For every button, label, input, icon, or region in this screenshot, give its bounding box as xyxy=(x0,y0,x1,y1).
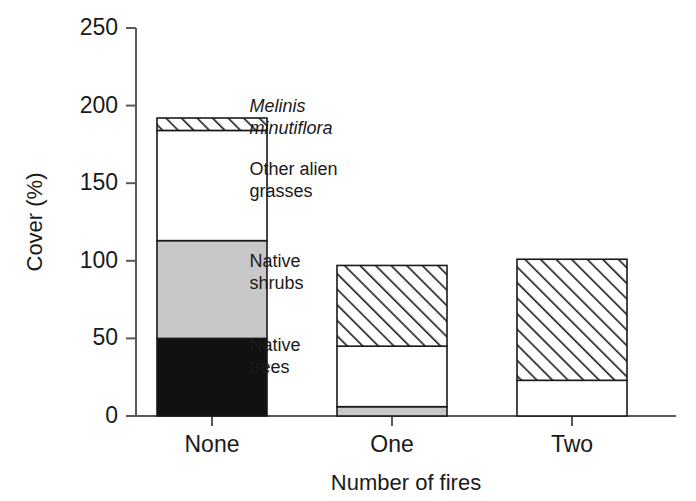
y-tick-label-200: 200 xyxy=(80,92,118,118)
series-annotation-3: grasses xyxy=(249,181,312,201)
series-annotation-0: Melinis xyxy=(249,96,305,116)
bar-segment-one-other-alien-grasses xyxy=(337,346,447,407)
x-tick-label-two: Two xyxy=(551,431,593,457)
y-tick-label-250: 250 xyxy=(80,14,118,40)
series-annotation-2: Other alien xyxy=(249,159,337,179)
series-annotation-6: Native xyxy=(249,335,300,355)
x-tick-label-none: None xyxy=(185,431,240,457)
bar-segment-one-melinis-minutiflora xyxy=(337,265,447,346)
y-tick-label-50: 50 xyxy=(92,324,118,350)
series-annotation-5: shrubs xyxy=(249,273,303,293)
stacked-bar-chart: 050100150200250 Cover (%) NoneOneTwo Num… xyxy=(0,0,696,501)
y-tick-label-0: 0 xyxy=(105,402,118,428)
y-axis-title: Cover (%) xyxy=(22,172,47,271)
y-tick-label-100: 100 xyxy=(80,247,118,273)
x-tick-label-one: One xyxy=(370,431,413,457)
y-tick-label-150: 150 xyxy=(80,169,118,195)
chart-figure: 050100150200250 Cover (%) NoneOneTwo Num… xyxy=(0,0,696,501)
x-axis-title: Number of fires xyxy=(331,470,481,495)
bar-segment-one-native-shrubs xyxy=(337,407,447,416)
bar-segment-two-melinis-minutiflora xyxy=(517,259,627,380)
series-annotation-1: minutiflora xyxy=(249,118,332,138)
bar-segment-two-other-alien-grasses xyxy=(517,380,627,416)
series-annotation-4: Native xyxy=(249,251,300,271)
series-annotation-7: trees xyxy=(249,357,289,377)
